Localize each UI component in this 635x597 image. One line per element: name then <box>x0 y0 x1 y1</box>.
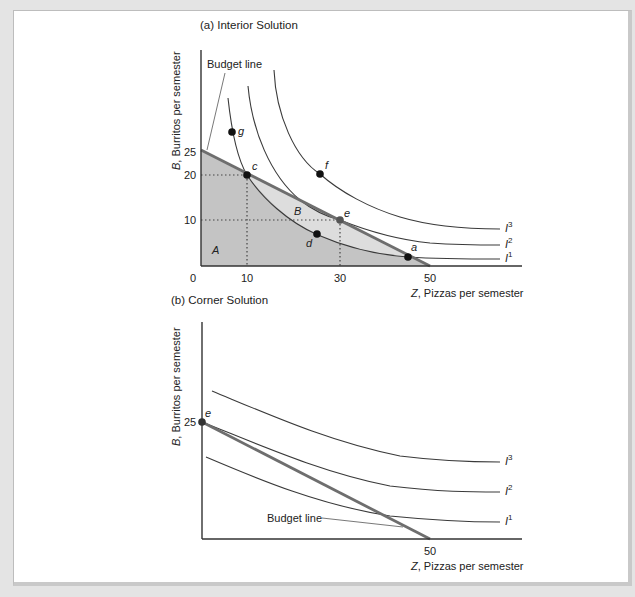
point-e <box>336 216 344 224</box>
x-tick-0: 0 <box>190 272 196 284</box>
curve-label-i3-b: I3 <box>505 453 513 467</box>
y-tick-20: 20 <box>184 169 196 181</box>
indifference-curve-i1-b <box>206 457 500 522</box>
indifference-curve-i2-b <box>202 422 500 492</box>
point-f-label: f <box>325 159 329 171</box>
x-tick-10: 10 <box>241 272 253 284</box>
curve-label-i3-a: I3 <box>505 220 513 234</box>
x-tick-50-b: 50 <box>424 545 436 557</box>
y-tick-25: 25 <box>184 146 196 158</box>
x-axis-label-b: Z, Pizzas per semester <box>410 560 524 572</box>
x-tick-30: 30 <box>334 272 346 284</box>
point-f <box>316 170 324 178</box>
indifference-curve-i3-b <box>212 391 500 462</box>
region-b-label: B <box>294 205 301 217</box>
point-a-label: a <box>411 241 417 253</box>
point-e-label-b: e <box>205 407 211 419</box>
point-c-label: c <box>252 160 258 172</box>
x-tick-50: 50 <box>424 272 436 284</box>
point-g <box>228 128 236 136</box>
y-tick-10: 10 <box>184 214 196 226</box>
curve-label-i2-b: I2 <box>505 483 513 497</box>
y-tick-25-b: 25 <box>184 416 196 428</box>
y-axis-label-a: B, Burritos per semester <box>170 51 182 170</box>
point-c <box>243 171 251 179</box>
curve-label-i1-b: I1 <box>505 513 513 527</box>
utility-maximization-figure: (a) Interior Solution Budget line 25 20 <box>0 0 635 597</box>
point-a <box>404 253 412 261</box>
curve-label-i2-a: I2 <box>505 236 513 250</box>
point-d-label: d <box>306 237 313 249</box>
budget-label-leader-a <box>207 73 225 150</box>
curve-label-i1-a: I1 <box>505 250 513 264</box>
y-axis-label-b: B, Burritos per semester <box>170 327 182 446</box>
panel-a-title: (a) Interior Solution <box>200 19 298 31</box>
panel-a-interior-solution: (a) Interior Solution Budget line 25 20 <box>170 19 524 299</box>
point-g-label: g <box>238 125 245 137</box>
panel-b-corner-solution: (b) Corner Solution Budget line 25 50 B,… <box>170 294 524 572</box>
point-e-b <box>198 418 206 426</box>
point-e-label: e <box>344 207 350 219</box>
point-d <box>313 230 321 238</box>
budget-line-label-b: Budget line <box>267 512 322 524</box>
budget-line-label-a: Budget line <box>207 58 262 70</box>
panel-b-title: (b) Corner Solution <box>171 294 268 306</box>
x-axis-label-a: Z, Pizzas per semester <box>410 287 524 299</box>
region-a-label: A <box>211 244 219 256</box>
